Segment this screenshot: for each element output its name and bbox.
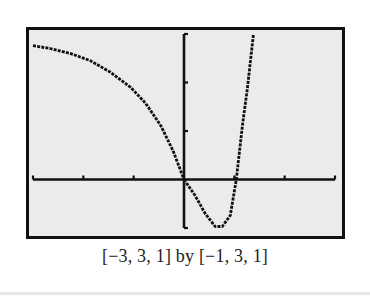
axes bbox=[33, 34, 335, 228]
window-settings-caption: [−3, 3, 1] by [−1, 3, 1] bbox=[0, 246, 370, 267]
graph-plot-area bbox=[29, 30, 342, 236]
curve-right-branch bbox=[184, 34, 254, 227]
curve-left-branch bbox=[33, 46, 184, 180]
calculator-screen-frame bbox=[26, 27, 345, 239]
divider bbox=[0, 292, 370, 295]
curves bbox=[33, 34, 254, 227]
